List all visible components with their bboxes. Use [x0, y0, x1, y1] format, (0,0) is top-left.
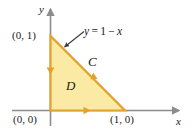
region-label-d: D [66, 79, 75, 92]
point-label-x-intercept: (1, 0) [110, 114, 134, 125]
y-axis-label: y [39, 4, 44, 15]
curve-label-c: C [88, 55, 97, 68]
math-figure: y x (0, 1) (0, 0) (1, 0) D C y = 1 − x [0, 0, 192, 137]
equation-label: y = 1 − x [84, 26, 122, 38]
equation-rhs-var: x [117, 25, 122, 37]
equation-leader-line [65, 32, 85, 48]
point-label-y-intercept: (0, 1) [12, 30, 36, 41]
point-label-origin: (0, 0) [13, 114, 37, 125]
x-axis-label: x [176, 116, 181, 127]
region-d-polygon [51, 36, 126, 111]
